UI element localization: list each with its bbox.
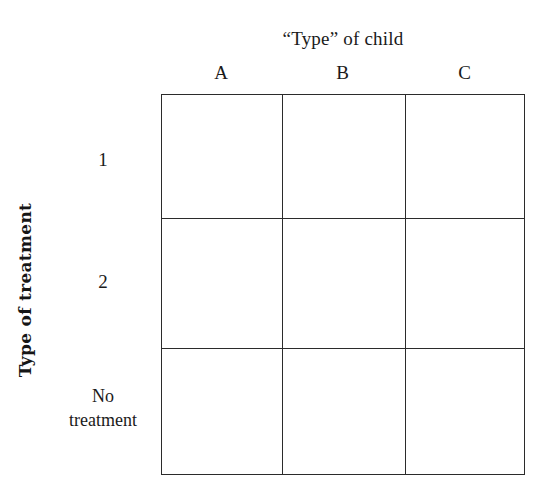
column-header-a: A (161, 62, 281, 84)
row-label-2: 2 (48, 270, 158, 293)
table-cell[interactable] (282, 218, 405, 348)
table-cell[interactable] (282, 95, 405, 218)
table-cell[interactable] (405, 95, 526, 218)
table-cell[interactable] (282, 348, 405, 476)
row-label-no-treatment-line-2: treatment (48, 408, 158, 432)
table-cell[interactable] (162, 95, 282, 218)
grid-horizontal-divider-1 (162, 218, 524, 219)
row-label-2-line-1: 2 (48, 270, 158, 293)
row-axis-title: Type of treatment (15, 203, 35, 377)
column-header-b: B (281, 62, 404, 84)
column-axis-title: “Type” of child (161, 28, 525, 50)
table-cell[interactable] (405, 218, 526, 348)
grid-vertical-divider-2 (405, 95, 406, 474)
column-header-c: C (404, 62, 525, 84)
figure-canvas: “Type” of child A B C Type of treatment … (0, 0, 555, 496)
grid-horizontal-divider-2 (162, 348, 524, 349)
grid-vertical-divider-1 (282, 95, 283, 474)
design-matrix-grid (161, 94, 525, 475)
row-label-1: 1 (48, 148, 158, 171)
table-cell[interactable] (405, 348, 526, 476)
row-label-no-treatment: No treatment (48, 384, 158, 432)
table-cell[interactable] (162, 218, 282, 348)
row-label-1-line-1: 1 (48, 148, 158, 171)
row-label-no-treatment-line-1: No (48, 384, 158, 408)
table-cell[interactable] (162, 348, 282, 476)
